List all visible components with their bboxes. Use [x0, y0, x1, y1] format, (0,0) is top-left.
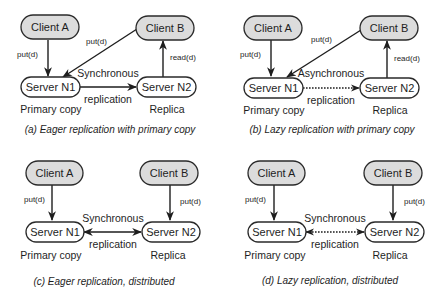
- server-n1-node: Server N1: [26, 222, 84, 242]
- edge-label-client-b: put(d): [404, 197, 425, 206]
- replication-label: replication: [311, 238, 359, 250]
- replication-mode-label: Synchronous: [77, 67, 138, 79]
- server-n1-label: Server N1: [249, 82, 299, 94]
- caption-a: (a) Eager replication with primary copy: [25, 124, 197, 135]
- client-a-label: Client A: [36, 167, 75, 179]
- server-n2-label: Server N2: [142, 81, 192, 93]
- client-a-label: Client A: [254, 22, 293, 34]
- server-n2-node: Server N2: [360, 78, 419, 98]
- edge-label-client-a: put(d): [24, 195, 45, 204]
- replication-diagram: Client A Client B Server N1 Server N2 pu…: [0, 0, 440, 296]
- server-n2-node: Server N2: [142, 222, 200, 242]
- caption-text: Eager replication, distributed: [45, 276, 175, 287]
- caption-text: Lazy replication, distributed: [274, 275, 398, 286]
- client-a-label: Client A: [258, 167, 297, 179]
- edge-label-read: read(d): [394, 54, 420, 63]
- client-a-node: Client A: [26, 161, 83, 185]
- client-b-node: Client B: [360, 16, 418, 40]
- caption-text: Eager replication with primary copy: [37, 124, 196, 135]
- role-n1-label: Primary copy: [243, 104, 305, 116]
- client-a-node: Client A: [244, 16, 302, 40]
- server-n1-node: Server N1: [244, 78, 303, 98]
- caption-letter: (b): [249, 124, 261, 135]
- server-n1-label: Server N1: [30, 226, 80, 238]
- client-b-label: Client B: [374, 167, 413, 179]
- client-b-node: Client B: [140, 161, 198, 185]
- role-n2-label: Replica: [372, 249, 407, 261]
- caption-d: (d) Lazy replication, distributed: [262, 275, 399, 286]
- edge-label-client-b: put(d): [311, 35, 332, 44]
- replication-label: replication: [84, 93, 132, 105]
- role-n1-label: Primary copy: [20, 249, 82, 261]
- role-n2-label: Replica: [372, 104, 407, 116]
- replication-label: replication: [307, 94, 355, 106]
- replication-label: replication: [89, 238, 137, 250]
- role-n2-label: Replica: [149, 103, 184, 115]
- caption-letter: (c): [33, 276, 45, 287]
- server-n1-label: Server N1: [252, 226, 302, 238]
- server-n2-node: Server N2: [365, 222, 424, 242]
- client-b-node: Client B: [136, 16, 194, 40]
- server-n2-label: Server N2: [365, 82, 415, 94]
- client-b-label: Client B: [370, 22, 409, 34]
- caption-c: (c) Eager replication, distributed: [33, 276, 175, 287]
- client-b-label: Client B: [146, 22, 185, 34]
- edge-label-client-a: put(d): [245, 195, 266, 204]
- caption-b: (b) Lazy replication with primary copy: [249, 124, 415, 135]
- panel-d: Client A Client B Server N1 Server N2 pu…: [244, 161, 425, 286]
- edge-label-client-a: put(d): [17, 50, 38, 59]
- panel-a: Client A Client B Server N1 Server N2 pu…: [17, 15, 196, 135]
- server-n1-node: Server N1: [248, 222, 306, 242]
- panel-c: Client A Client B Server N1 Server N2 pu…: [20, 161, 201, 287]
- replication-mode-label: Asynchronous: [298, 67, 365, 79]
- replication-mode-label: Synchronous: [304, 212, 365, 224]
- caption-text: Lazy replication with primary copy: [262, 124, 416, 135]
- server-n1-label: Server N1: [26, 81, 76, 93]
- client-a-node: Client A: [21, 15, 79, 39]
- client-b-label: Client B: [150, 167, 189, 179]
- edge-label-client-b: put(d): [86, 37, 107, 46]
- edge-label-client-a: put(d): [240, 50, 261, 59]
- replication-mode-label: Synchronous: [82, 212, 143, 224]
- caption-letter: (d): [262, 275, 274, 286]
- client-b-node: Client B: [364, 161, 422, 185]
- role-n1-label: Primary copy: [20, 103, 82, 115]
- panel-b: Client A Client B Server N1 Server N2 pu…: [240, 16, 420, 135]
- client-a-node: Client A: [248, 161, 305, 185]
- edge-label-client-b: put(d): [180, 197, 201, 206]
- server-n1-node: Server N1: [21, 77, 80, 97]
- server-n2-label: Server N2: [370, 226, 420, 238]
- role-n1-label: Primary copy: [244, 249, 306, 261]
- server-n2-node: Server N2: [137, 77, 196, 97]
- server-n2-label: Server N2: [146, 226, 196, 238]
- caption-letter: (a): [25, 124, 37, 135]
- client-a-label: Client A: [31, 21, 70, 33]
- edge-label-read: read(d): [170, 53, 196, 62]
- role-n2-label: Replica: [150, 249, 185, 261]
